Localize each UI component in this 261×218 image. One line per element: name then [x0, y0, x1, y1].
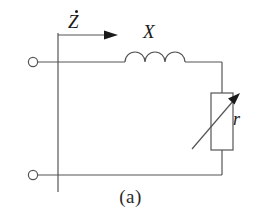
circuit-figure: Z X r (a): [0, 0, 261, 218]
resistance-label: r: [233, 110, 240, 128]
bottom-terminal-circle-icon: [28, 170, 37, 179]
figure-caption: (a): [0, 186, 261, 208]
inductor-coil-icon: [125, 52, 185, 62]
impedance-arrowhead-icon: [104, 31, 118, 40]
top-terminal-circle-icon: [28, 57, 37, 66]
resistor-body-icon: [211, 93, 233, 150]
impedance-label: Z: [68, 12, 79, 31]
reactance-label: X: [143, 22, 155, 41]
